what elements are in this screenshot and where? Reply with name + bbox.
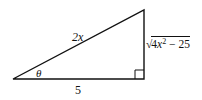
radicand-rest: − 25 bbox=[166, 38, 190, 50]
opposite-side-label: √4x2 − 25 bbox=[146, 36, 190, 50]
adjacent-side-label: 5 bbox=[75, 84, 81, 96]
hypotenuse-label: 2x bbox=[72, 31, 83, 43]
angle-theta-label: θ bbox=[36, 67, 41, 79]
radicand: 4x2 − 25 bbox=[151, 36, 190, 50]
radical-expression: √4x2 − 25 bbox=[146, 36, 190, 50]
right-angle-marker bbox=[135, 70, 144, 79]
triangle-shape bbox=[13, 10, 144, 79]
triangle-svg bbox=[0, 0, 202, 100]
hypotenuse-value: 2x bbox=[72, 30, 83, 44]
right-triangle-diagram: 2x θ 5 √4x2 − 25 bbox=[0, 0, 202, 100]
